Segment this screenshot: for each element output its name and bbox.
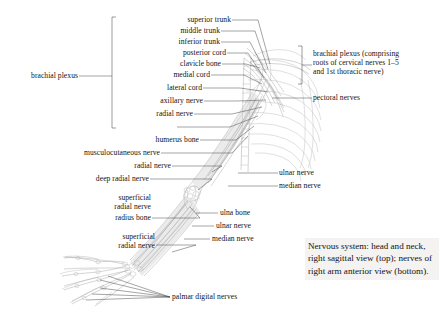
label-middle-trunk: middle trunk xyxy=(0,26,220,35)
label-posterior-cord: posterior cord xyxy=(0,48,226,57)
label-median-nerve-lower: median nerve xyxy=(212,234,254,243)
label-line-2: radial nerve xyxy=(0,241,155,250)
label-ulnar-nerve: ulnar nerve xyxy=(279,168,314,177)
label-line-1: superficial xyxy=(0,193,151,202)
label-clavicle-bone: clavicle bone xyxy=(0,59,221,68)
label-inferior-trunk: inferior trunk xyxy=(0,37,220,46)
ribcage-artwork xyxy=(241,58,321,181)
label-superficial-radial-nerve-1: superficial radial nerve xyxy=(0,193,151,211)
label-ulnar-nerve-lower: ulnar nerve xyxy=(216,221,251,230)
label-radius-bone: radius bone xyxy=(0,213,151,222)
label-line-1: superficial xyxy=(0,232,155,241)
label-brachial-plexus-detail: brachial plexus (comprising roots of cer… xyxy=(313,49,437,77)
label-line-2: radial nerve xyxy=(0,202,151,211)
label-line-1: brachial plexus (comprising xyxy=(313,49,437,58)
figure-caption: Nervous system: head and neck, right sag… xyxy=(305,238,439,280)
label-ulna-bone: ulna bone xyxy=(220,208,250,217)
label-humerus-bone: humerus bone xyxy=(0,135,199,144)
label-musculocutaneous-nerve: musculocutaneous nerve xyxy=(0,148,160,157)
label-radial-nerve: radial nerve xyxy=(0,109,193,118)
label-line-3: and 1st thoracic nerve) xyxy=(313,67,437,76)
label-median-nerve: median nerve xyxy=(279,181,321,190)
label-superficial-radial-nerve-2: superficial radial nerve xyxy=(0,232,155,250)
label-deep-radial-nerve: deep radial nerve xyxy=(0,174,149,183)
label-radial-nerve-upper: radial nerve xyxy=(0,161,171,170)
label-axillary-nerve: axillary nerve xyxy=(0,96,203,105)
label-lateral-cord: lateral cord xyxy=(0,83,202,92)
label-palmar-digital-nerves: palmar digital nerves xyxy=(172,292,237,301)
figure-canvas: brachial plexus humerus bone musculocuta… xyxy=(0,0,440,317)
label-line-2: roots of cervical nerves 1–5 xyxy=(313,58,437,67)
label-pectoral-nerves: pectoral nerves xyxy=(313,93,360,102)
label-medial-cord: medial cord xyxy=(0,70,210,79)
label-superior-trunk: superior trunk xyxy=(0,15,231,24)
